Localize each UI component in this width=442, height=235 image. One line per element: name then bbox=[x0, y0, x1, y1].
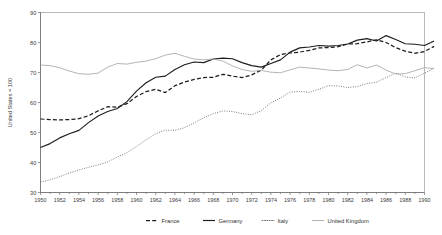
x-tick-label: 1990 bbox=[419, 197, 431, 203]
line-chart: 30405060708090 1950195219541956195819601… bbox=[0, 0, 442, 235]
y-tick-label: 60 bbox=[30, 100, 36, 106]
x-tick-label: 1956 bbox=[92, 197, 104, 203]
x-tick-label: 1964 bbox=[169, 197, 181, 203]
x-tick-label: 1962 bbox=[150, 197, 162, 203]
x-tick-label: 1986 bbox=[380, 197, 392, 203]
y-tick-label: 30 bbox=[30, 190, 36, 196]
chart-background bbox=[0, 0, 442, 235]
y-axis-title: United States = 100 bbox=[7, 78, 13, 127]
legend-label-italy: Italy bbox=[278, 218, 289, 224]
y-tick-label: 40 bbox=[30, 160, 36, 166]
x-tick-label: 1960 bbox=[131, 197, 143, 203]
y-tick-label: 80 bbox=[30, 40, 36, 46]
x-tick-label: 1972 bbox=[246, 197, 258, 203]
x-tick-label: 1984 bbox=[361, 197, 373, 203]
y-tick-label: 70 bbox=[30, 70, 36, 76]
x-tick-label: 1982 bbox=[342, 197, 354, 203]
y-axis-title-text: United States = 100 bbox=[7, 78, 13, 127]
x-tick-label: 1952 bbox=[54, 197, 66, 203]
x-tick-label: 1980 bbox=[323, 197, 335, 203]
y-tick-label: 90 bbox=[30, 10, 36, 16]
x-tick-label: 1978 bbox=[303, 197, 315, 203]
x-tick-label: 1950 bbox=[35, 197, 47, 203]
x-tick-label: 1976 bbox=[284, 197, 296, 203]
legend-label-germany: Germany bbox=[219, 218, 243, 224]
x-tick-label: 1966 bbox=[188, 197, 200, 203]
chart-canvas: 30405060708090 1950195219541956195819601… bbox=[0, 0, 442, 235]
legend-label-united-kingdom: United Kingdom bbox=[328, 218, 369, 224]
x-tick-label: 1970 bbox=[227, 197, 239, 203]
x-tick-label: 1954 bbox=[73, 197, 85, 203]
y-tick-label: 50 bbox=[30, 130, 36, 136]
x-tick-label: 1968 bbox=[207, 197, 219, 203]
x-tick-label: 1974 bbox=[265, 197, 277, 203]
x-tick-label: 1988 bbox=[399, 197, 411, 203]
x-tick-label: 1958 bbox=[111, 197, 123, 203]
legend-label-france: France bbox=[162, 218, 180, 224]
